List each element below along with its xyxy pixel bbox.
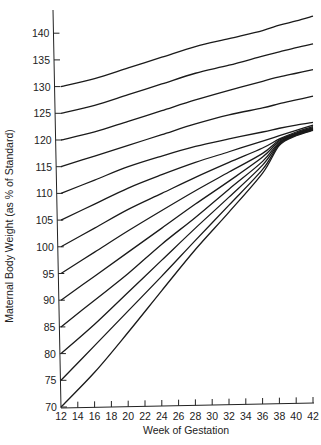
weight-curve xyxy=(61,125,313,220)
y-tick-label: 115 xyxy=(35,161,52,173)
y-tick-label: 85 xyxy=(44,321,56,333)
x-tick-label: 24 xyxy=(156,410,168,422)
x-tick-label: 30 xyxy=(206,410,218,422)
y-tick-label: 140 xyxy=(32,27,50,39)
curves xyxy=(61,16,313,407)
x-tick-label: 42 xyxy=(307,410,319,422)
x-axis-line xyxy=(61,403,314,408)
x-tick-label: 22 xyxy=(139,410,151,422)
x-tick-label: 12 xyxy=(55,410,67,422)
y-tick-label: 75 xyxy=(45,374,57,386)
y-tick-label: 100 xyxy=(36,241,54,253)
x-tick-label: 40 xyxy=(290,410,302,422)
y-tick-label: 80 xyxy=(44,348,56,360)
weight-curve xyxy=(61,122,313,193)
y-tick-label: 130 xyxy=(33,81,51,93)
y-tick-label: 120 xyxy=(34,134,52,146)
weight-curve xyxy=(61,130,313,380)
x-tick-label: 26 xyxy=(173,410,185,422)
y-tick-label: 90 xyxy=(43,294,55,306)
x-tick-label: 32 xyxy=(223,410,235,422)
x-tick-label: 36 xyxy=(257,410,269,422)
y-tick-label: 135 xyxy=(32,54,50,66)
weight-curve xyxy=(61,129,313,353)
weight-curve xyxy=(61,129,313,327)
x-tick-label: 28 xyxy=(190,410,202,422)
x-tick-label: 16 xyxy=(89,410,101,422)
ticks: 7075808590951001051101151201251301351401… xyxy=(32,27,319,422)
y-tick-label: 125 xyxy=(34,107,52,119)
y-tick-label: 110 xyxy=(36,187,53,199)
y-tick-label: 105 xyxy=(36,214,54,226)
y-tick-label: 95 xyxy=(43,268,55,280)
y-axis-title: Maternal Body Weight (as % of Standard) xyxy=(3,129,15,323)
x-tick-label: 20 xyxy=(122,410,134,422)
x-axis-title: Week of Gestation xyxy=(143,424,229,436)
weight-curve xyxy=(61,130,313,407)
weight-curve xyxy=(61,96,313,166)
x-tick-label: 34 xyxy=(240,410,252,422)
x-tick-label: 38 xyxy=(274,410,286,422)
x-tick-label: 18 xyxy=(106,410,118,422)
weight-gain-chart: 7075808590951001051101151201251301351401… xyxy=(0,0,321,445)
x-tick-label: 14 xyxy=(72,410,84,422)
